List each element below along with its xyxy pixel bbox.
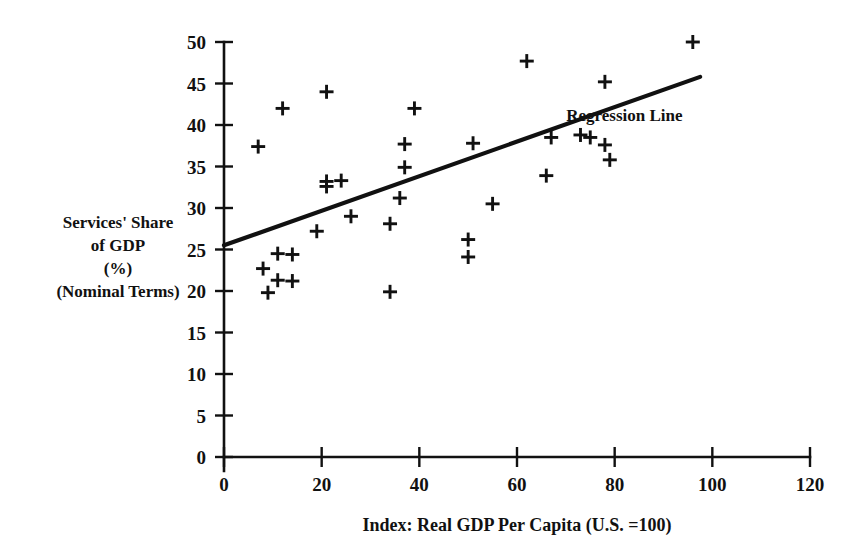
y-axis-tick-label: 25: [187, 240, 206, 261]
data-point-marker: [466, 136, 480, 150]
x-axis-ticks: 020406080100120: [219, 447, 824, 495]
x-axis-tick-label: 20: [312, 474, 331, 495]
y-axis-title-line: Services' Share: [63, 213, 174, 232]
y-axis-title: Services' Shareof GDP(%)(Nominal Terms): [56, 213, 179, 301]
data-point-marker: [539, 169, 553, 183]
data-point-marker: [598, 75, 612, 89]
y-axis-tick-label: 45: [187, 74, 206, 95]
data-point-marker: [573, 128, 587, 142]
data-point-marker: [334, 174, 348, 188]
data-point-marker: [344, 209, 358, 223]
y-axis-title-line: (Nominal Terms): [56, 282, 179, 301]
data-point-marker: [285, 274, 299, 288]
data-point-marker: [398, 160, 412, 174]
y-axis-tick-label: 15: [187, 323, 206, 344]
x-axis-tick-label: 40: [410, 474, 429, 495]
x-axis-tick-label: 0: [219, 474, 229, 495]
data-point-marker: [486, 197, 500, 211]
data-point-marker: [520, 54, 534, 68]
regression-line: [224, 77, 700, 245]
y-axis-ticks: 05101520253035404550: [187, 32, 233, 468]
x-axis-tick-label: 100: [698, 474, 727, 495]
data-point-marker: [598, 138, 612, 152]
data-point-marker: [407, 101, 421, 115]
data-point-marker: [383, 285, 397, 299]
x-axis-tick-label: 60: [508, 474, 527, 495]
y-axis-title-line: of GDP: [91, 236, 145, 255]
data-point-marker: [461, 233, 475, 247]
data-point-marker: [285, 247, 299, 261]
x-axis-title: Index: Real GDP Per Capita (U.S. =100): [363, 515, 672, 536]
data-point-marker: [393, 191, 407, 205]
data-point-markers: [251, 35, 700, 300]
y-axis-tick-label: 0: [197, 447, 207, 468]
data-point-marker: [398, 137, 412, 151]
regression-line-label: Regression Line: [566, 106, 683, 125]
data-point-marker: [271, 273, 285, 287]
x-axis-tick-label: 120: [796, 474, 825, 495]
data-point-marker: [261, 286, 275, 300]
data-point-marker: [276, 101, 290, 115]
y-axis-tick-label: 10: [187, 364, 206, 385]
y-axis-tick-label: 30: [187, 198, 206, 219]
y-axis-title-line: (%): [104, 259, 132, 278]
scatter-chart-figure: Services' Shareof GDP(%)(Nominal Terms) …: [0, 0, 856, 560]
data-point-marker: [686, 35, 700, 49]
data-point-marker: [256, 262, 270, 276]
y-axis-tick-label: 40: [187, 115, 206, 136]
data-point-marker: [251, 140, 265, 154]
y-axis-tick-label: 35: [187, 157, 206, 178]
chart-canvas: Services' Shareof GDP(%)(Nominal Terms) …: [0, 0, 856, 560]
x-axis-tick-label: 80: [605, 474, 624, 495]
data-point-marker: [383, 217, 397, 231]
data-point-marker: [583, 130, 597, 144]
data-point-marker: [271, 247, 285, 261]
y-axis-tick-label: 5: [197, 406, 207, 427]
y-axis-tick-label: 50: [187, 32, 206, 53]
y-axis-tick-label: 20: [187, 281, 206, 302]
data-point-marker: [310, 224, 324, 238]
data-point-marker: [320, 85, 334, 99]
data-point-marker: [603, 153, 617, 167]
data-point-marker: [461, 250, 475, 264]
